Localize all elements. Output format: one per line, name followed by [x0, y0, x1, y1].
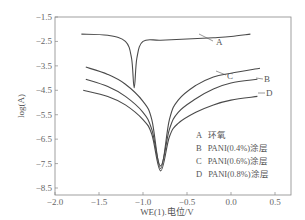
curve-label-b: B: [264, 74, 270, 84]
y-tick-label: −8.5: [36, 183, 53, 193]
x-tick-label: 0.0: [225, 197, 237, 207]
x-axis-label: WE(1).电位/V: [140, 206, 194, 217]
x-tick-label: −1.0: [135, 197, 152, 207]
y-tick-label: −3.5: [36, 61, 53, 71]
x-tick-label: 0.5: [269, 197, 281, 207]
x-tick-label: −0.5: [179, 197, 196, 207]
legend-item-c: CPANI(0.6%)涂层: [196, 156, 268, 166]
y-tick-label: −5.5: [36, 110, 53, 120]
y-tick-label: −4.5: [36, 85, 53, 95]
curve-callouts: ACBD: [199, 34, 273, 98]
polarization-chart: −1.5−2.5−3.5−4.5−5.5−6.5−7.5−8.5 −2.0−1.…: [0, 0, 305, 220]
y-tick-label: −1.5: [36, 12, 53, 22]
curve-a: [81, 34, 250, 88]
y-tick-label: −2.5: [36, 36, 53, 46]
curve-label-c: C: [227, 71, 233, 81]
x-axis: −2.0−1.5−1.0−0.50.00.5: [47, 192, 281, 207]
curve-label-a: A: [216, 37, 223, 47]
curve-label-d: D: [266, 88, 273, 98]
legend-item-a: A环氧: [196, 130, 226, 140]
legend: A环氧 BPANI(0.4%)涂层 CPANI(0.6%)涂层 DPANI(0.…: [196, 130, 269, 179]
legend-item-b: BPANI(0.4%)涂层: [196, 143, 268, 153]
y-tick-label: −6.5: [36, 134, 53, 144]
legend-item-d: DPANI(0.8%)涂层: [196, 169, 269, 179]
x-tick-label: −2.0: [47, 197, 64, 207]
x-tick-label: −1.5: [91, 197, 108, 207]
y-tick-label: −7.5: [36, 159, 53, 169]
y-axis-label: log(A): [16, 94, 26, 118]
